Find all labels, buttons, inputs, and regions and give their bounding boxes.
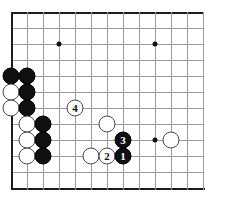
white-stone-b[interactable] <box>3 100 20 117</box>
white-stone-f[interactable] <box>99 116 116 133</box>
star-point-lower-right <box>153 138 158 143</box>
grid-line-vertical-3 <box>59 12 60 190</box>
black-stone-b[interactable] <box>19 68 36 85</box>
black-stone-e[interactable] <box>35 116 52 133</box>
black-stone-a[interactable] <box>3 68 20 85</box>
black-move-1[interactable]: 1 <box>115 148 132 165</box>
grid-line-vertical-12 <box>203 12 204 190</box>
black-stone-g[interactable] <box>35 148 52 165</box>
black-stone-d[interactable] <box>19 100 36 117</box>
grid-line-horizontal-11 <box>11 188 205 190</box>
goban-grid[interactable]: 4231 <box>0 0 225 210</box>
grid-line-vertical-10 <box>171 12 172 190</box>
grid-line-vertical-11 <box>187 12 188 190</box>
stone-move-number: 3 <box>120 135 126 146</box>
white-stone-g[interactable] <box>83 148 100 165</box>
stone-move-number: 2 <box>104 151 110 162</box>
white-move-4[interactable]: 4 <box>67 100 84 117</box>
star-point-upper-right <box>153 42 158 47</box>
stone-move-number: 1 <box>120 151 126 162</box>
white-stone-d[interactable] <box>19 132 36 149</box>
white-stone-c[interactable] <box>19 116 36 133</box>
go-board-diagram: 4231 <box>0 0 225 210</box>
grid-line-vertical-8 <box>139 12 140 190</box>
black-move-3[interactable]: 3 <box>115 132 132 149</box>
white-stone-h[interactable] <box>163 132 180 149</box>
white-stone-a[interactable] <box>3 84 20 101</box>
stone-move-number: 4 <box>72 103 78 114</box>
star-point-upper-left <box>57 42 62 47</box>
black-stone-c[interactable] <box>19 84 36 101</box>
white-move-2[interactable]: 2 <box>99 148 116 165</box>
grid-line-vertical-9 <box>155 12 156 190</box>
black-stone-f[interactable] <box>35 132 52 149</box>
white-stone-e[interactable] <box>19 148 36 165</box>
